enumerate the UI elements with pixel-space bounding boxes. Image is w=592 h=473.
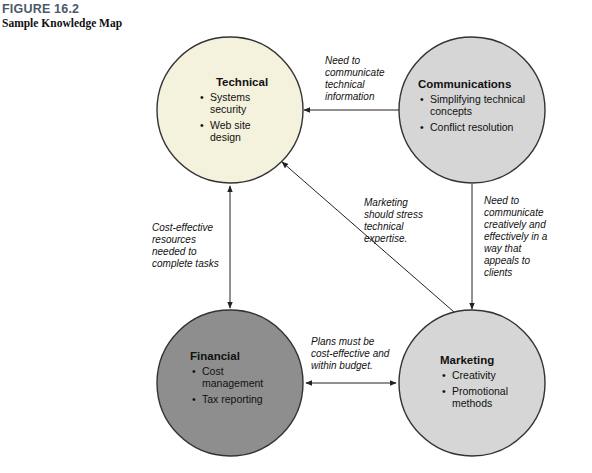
node-title: Financial (190, 350, 280, 362)
node-item: Simplifying technical concepts (430, 93, 526, 117)
edge-label-marketing-technical: Marketing should stress technical expert… (364, 197, 423, 245)
node-marketing: Marketing Creativity Promotional methods (440, 354, 530, 413)
node-title: Marketing (440, 354, 530, 366)
node-items: Creativity Promotional methods (440, 369, 530, 409)
node-item: Tax reporting (202, 393, 282, 405)
node-financial: Financial Cost management Tax reporting (190, 350, 280, 409)
edge-label-technical-financial: Cost-effective resources needed to compl… (152, 222, 219, 270)
node-item: Cost management (202, 365, 266, 389)
edge-label-communications-technical: Need to communicate technical informatio… (325, 55, 384, 103)
node-communications: Communications Simplifying technical con… (418, 78, 528, 137)
edge-label-communications-marketing: Need to communicate creatively and effec… (484, 195, 547, 279)
node-item: Systems security (210, 91, 270, 115)
node-items: Systems security Web site design (198, 91, 290, 143)
node-item: Creativity (452, 369, 530, 381)
node-item: Promotional methods (452, 385, 518, 409)
node-title: Technical (194, 76, 290, 88)
node-title: Communications (418, 78, 528, 90)
node-technical: Technical Systems security Web site desi… (198, 76, 290, 147)
node-item: Web site design (210, 119, 270, 143)
edge-label-financial-marketing: Plans must be cost-effective and within … (311, 336, 389, 372)
node-items: Simplifying technical concepts Conflict … (418, 93, 528, 133)
node-item: Conflict resolution (430, 121, 530, 133)
node-items: Cost management Tax reporting (190, 365, 280, 405)
